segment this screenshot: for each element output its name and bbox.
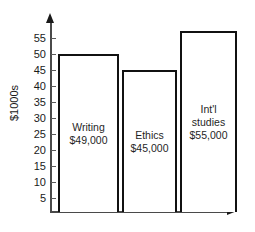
y-tick-mark [51,150,56,151]
y-axis-tick-labels: 55 50 45 40 35 30 25 20 15 10 5 [24,0,46,232]
y-tick-label: 35 [24,97,46,107]
y-tick-mark [51,70,56,71]
y-tick-label: 5 [24,193,46,203]
y-tick-label: 45 [24,65,46,75]
bar-category-label: Ethics [135,129,164,142]
bar-category-label: studies [192,116,225,129]
y-tick-mark [51,54,56,55]
y-tick-label: 10 [24,177,46,187]
bar-writing: Writing $49,000 [58,54,119,212]
y-tick-label: 40 [24,81,46,91]
y-tick-mark [51,166,56,167]
bar-category-label: Writing [72,121,104,134]
bar-value-label: $45,000 [131,142,169,155]
y-tick-mark [51,182,56,183]
y-axis-arrow-icon [46,13,54,23]
y-tick-label: 25 [24,129,46,139]
bar-intl-studies: Int'l studies $55,000 [180,31,237,212]
y-tick-label: 30 [24,113,46,123]
bar-ethics: Ethics $45,000 [122,70,177,212]
y-tick-mark [51,38,56,39]
y-tick-label: 55 [24,33,46,43]
bar-category-label: Int'l [200,103,216,116]
y-tick-label: 20 [24,145,46,155]
plot-area: 55 50 45 40 35 30 25 20 15 10 5 Writing … [0,0,255,232]
bar-value-label: $49,000 [70,134,108,147]
y-tick-mark [51,118,56,119]
y-tick-mark [51,102,56,103]
y-tick-label: 15 [24,161,46,171]
y-tick-mark [51,86,56,87]
y-tick-mark [51,134,56,135]
bar-value-label: $55,000 [190,129,228,142]
bar-chart-figure: $1000s 55 50 45 40 35 30 25 20 15 10 5 [0,0,255,232]
y-tick-label: 50 [24,49,46,59]
y-tick-mark [51,198,56,199]
y-axis-line [50,22,52,212]
